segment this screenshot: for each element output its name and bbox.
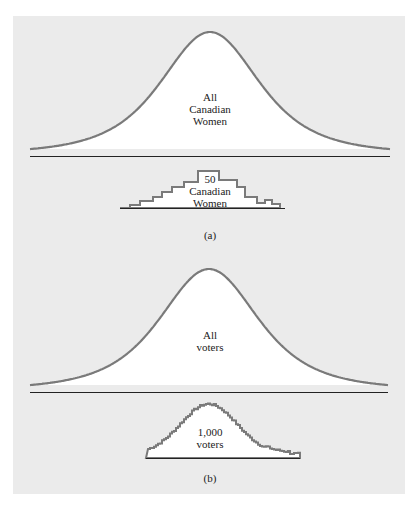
population-curve-b xyxy=(30,269,388,385)
sample-label-a: 50 Canadian Women xyxy=(180,173,240,209)
population-label-a: All Canadian Women xyxy=(170,91,250,127)
sample-label-b: 1,000 voters xyxy=(180,426,240,450)
caption-b: (b) xyxy=(190,472,230,484)
label-line: voters xyxy=(170,341,250,353)
label-line: Canadian xyxy=(180,185,240,197)
label-line: 1,000 xyxy=(180,426,240,438)
label-line: Women xyxy=(180,197,240,209)
label-line: Canadian xyxy=(170,103,250,115)
label-line: All xyxy=(170,91,250,103)
label-line: Women xyxy=(170,115,250,127)
population-label-b: All voters xyxy=(170,329,250,353)
caption-a: (a) xyxy=(190,229,230,241)
label-line: All xyxy=(170,329,250,341)
label-line: 50 xyxy=(180,173,240,185)
label-line: voters xyxy=(180,438,240,450)
